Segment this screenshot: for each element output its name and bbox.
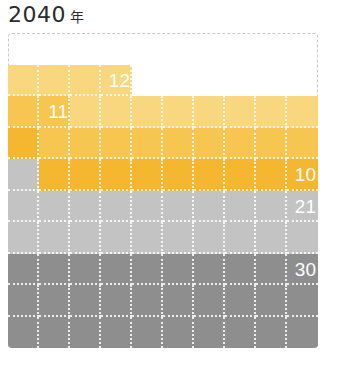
waffle-cell [256,254,287,286]
waffle-cell [70,285,101,317]
year-unit: 年 [70,9,85,25]
waffle-cell [39,254,70,286]
waffle-cell [39,222,70,254]
waffle-cell [132,191,163,223]
waffle-cell [70,96,101,128]
waffle-cell [163,254,194,286]
waffle-cell [256,285,287,317]
waffle-cell [287,285,318,317]
waffle-cell [70,159,101,191]
waffle-cell [132,222,163,254]
waffle-cell [256,191,287,223]
waffle-cell [70,191,101,223]
waffle-grid: 3021101112 [8,33,318,348]
waffle-cell [132,96,163,128]
waffle-cell [225,222,256,254]
waffle-cell [8,96,39,128]
waffle-cell [8,191,39,223]
segment-value-label: 11 [39,96,68,127]
waffle-cell [225,96,256,128]
waffle-cell [287,96,318,128]
segment-value-label: 21 [287,191,316,222]
waffle-cell [70,128,101,160]
chart-title: 2040年 [8,2,85,27]
waffle-cell [132,285,163,317]
waffle-cell [225,191,256,223]
waffle-cell [163,96,194,128]
waffle-cell [163,159,194,191]
waffle-cell [256,159,287,191]
segment-value-label: 12 [101,65,130,96]
waffle-cell [39,65,70,97]
waffle-cell [163,191,194,223]
waffle-cell [101,317,132,349]
waffle-cell [39,317,70,349]
waffle-cell [8,254,39,286]
waffle-cell [132,317,163,349]
waffle-cell [101,128,132,160]
waffle-cell [101,254,132,286]
waffle-cell [225,317,256,349]
waffle-cell [194,191,225,223]
waffle-cell [101,222,132,254]
waffle-cell [8,222,39,254]
waffle-cell [225,159,256,191]
waffle-cell [163,222,194,254]
waffle-cell [70,65,101,97]
waffle-cell [194,254,225,286]
year-label: 2040 [8,2,66,27]
waffle-cell [194,159,225,191]
waffle-cell [287,222,318,254]
waffle-cell [256,317,287,349]
waffle-cell [256,128,287,160]
waffle-cell [39,285,70,317]
waffle-cell [163,285,194,317]
waffle-cell [101,96,132,128]
waffle-cell [194,222,225,254]
waffle-cell [225,285,256,317]
waffle-cell [132,254,163,286]
waffle-cell [8,159,39,191]
waffle-cell [8,285,39,317]
waffle-cell [101,159,132,191]
waffle-cell [132,159,163,191]
waffle-cell [256,222,287,254]
waffle-cell [70,317,101,349]
waffle-cell [287,128,318,160]
waffle-cell [225,128,256,160]
waffle-cell [39,191,70,223]
waffle-cell [8,65,39,97]
waffle-cell [101,191,132,223]
waffle-cell [8,128,39,160]
waffle-cell [8,317,39,349]
segment-value-label: 30 [287,254,316,285]
waffle-cell [225,254,256,286]
waffle-cell [101,285,132,317]
segment-value-label: 10 [287,159,316,190]
waffle-cell [287,317,318,349]
waffle-cell [70,254,101,286]
waffle-cell [132,128,163,160]
waffle-cell [39,159,70,191]
waffle-cell [70,222,101,254]
waffle-cell [163,128,194,160]
waffle-cell [163,317,194,349]
waffle-cell [194,317,225,349]
waffle-cell [194,285,225,317]
waffle-cell [194,128,225,160]
waffle-cell [194,96,225,128]
waffle-cell [39,128,70,160]
waffle-cell [256,96,287,128]
